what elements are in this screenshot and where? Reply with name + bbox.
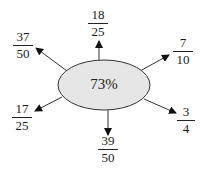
fraction-top-right: 7 10: [173, 37, 193, 66]
denominator: 10: [173, 54, 193, 66]
denominator: 25: [88, 26, 108, 38]
arrow-bottom-left: [35, 97, 62, 111]
center-percent-label: 73%: [84, 76, 124, 93]
denominator: 25: [12, 120, 32, 132]
denominator: 50: [13, 48, 33, 60]
diagram-canvas: 73% 18 25 37 50 7 10 17 25 3 4 39 50: [0, 0, 202, 170]
fraction-bottom-right: 3 4: [177, 106, 195, 135]
numerator: 3: [177, 106, 195, 118]
fraction-top-left: 37 50: [13, 31, 33, 60]
numerator: 37: [13, 31, 33, 43]
numerator: 39: [98, 135, 118, 147]
arrow-top-right: [140, 55, 169, 71]
arrow-bottom-right: [144, 99, 176, 113]
fraction-top: 18 25: [88, 9, 108, 38]
numerator: 7: [173, 37, 193, 49]
numerator: 17: [12, 103, 32, 115]
numerator: 18: [88, 9, 108, 21]
fraction-bottom: 39 50: [98, 135, 118, 164]
denominator: 50: [98, 152, 118, 164]
denominator: 4: [177, 123, 195, 135]
fraction-bottom-left: 17 25: [12, 103, 32, 132]
arrow-top-left: [36, 48, 67, 71]
